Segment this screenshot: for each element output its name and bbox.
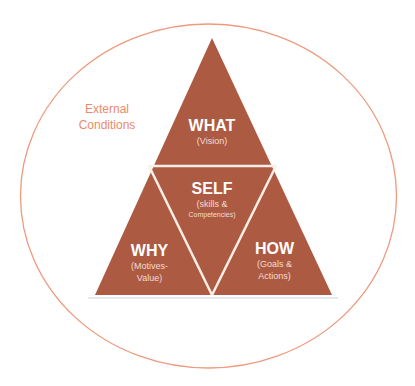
what-title: WHAT: [172, 117, 252, 135]
why-subtitle-2: Value): [112, 272, 187, 284]
how-title: HOW: [237, 240, 312, 258]
section-why: WHY (Motives- Value): [112, 242, 187, 284]
self-title: SELF: [167, 180, 257, 198]
how-subtitle-1: (Goals &: [237, 258, 312, 270]
external-conditions-label: External Conditions: [72, 101, 142, 133]
what-subtitle: (Vision): [172, 135, 252, 147]
external-label-line-1: External: [72, 101, 142, 117]
section-self: SELF (skills & Competencies): [167, 180, 257, 219]
why-subtitle-1: (Motives-: [112, 260, 187, 272]
section-what: WHAT (Vision): [172, 117, 252, 147]
self-subtitle-2: Competencies): [167, 210, 257, 219]
section-how: HOW (Goals & Actions): [237, 240, 312, 282]
why-title: WHY: [112, 242, 187, 260]
self-subtitle-1: (skills &: [167, 198, 257, 210]
how-subtitle-2: Actions): [237, 270, 312, 282]
external-label-line-2: Conditions: [72, 117, 142, 133]
